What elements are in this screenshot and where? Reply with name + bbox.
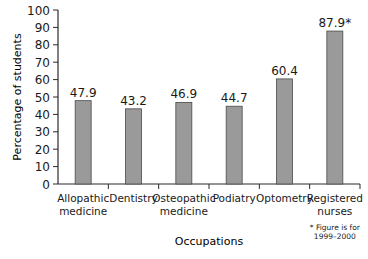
x-axis	[58, 184, 360, 189]
category-label: Osteopathic	[152, 192, 216, 204]
y-tick-label: 90	[35, 21, 50, 35]
y-tick-label: 0	[42, 178, 50, 192]
category-label: nurses	[317, 205, 352, 217]
bar-group: 60.4Optometry	[256, 64, 313, 204]
y-tick-label: 70	[35, 56, 50, 70]
bar-group: 43.2Dentistry	[109, 94, 157, 204]
category-label: Dentistry	[109, 192, 157, 204]
category-label: Allopathic	[57, 192, 109, 204]
value-label: 43.2	[120, 94, 147, 108]
category-label: Registered	[307, 192, 363, 204]
y-axis-title: Percentage of students	[11, 33, 24, 161]
category-label: Optometry	[256, 192, 313, 204]
bars: 47.9Allopathicmedicine43.2Dentistry46.9O…	[57, 16, 363, 217]
bar-group: 87.9*Registerednurses	[307, 16, 363, 217]
footnote: * Figure is for1999–2000	[310, 223, 361, 241]
y-tick-label: 100	[27, 4, 50, 18]
value-label: 46.9	[170, 87, 197, 101]
footnote-line: * Figure is for	[310, 223, 361, 232]
y-tick-label: 80	[35, 38, 50, 52]
value-label: 60.4	[271, 64, 298, 78]
y-tick-label: 40	[35, 108, 50, 122]
category-label: medicine	[59, 205, 107, 217]
bar-group: 47.9Allopathicmedicine	[57, 86, 109, 217]
bar	[226, 106, 242, 184]
y-tick-label: 50	[35, 91, 50, 105]
bar-chart: 0102030405060708090100 47.9Allopathicmed…	[0, 0, 368, 259]
value-label: 87.9*	[318, 16, 351, 30]
bar	[327, 31, 343, 184]
value-label: 44.7	[221, 91, 248, 105]
bar	[277, 79, 293, 184]
bar-group: 46.9Osteopathicmedicine	[152, 87, 216, 217]
y-tick-label: 20	[35, 143, 50, 157]
y-tick-label: 60	[35, 73, 50, 87]
x-axis-title: Occupations	[175, 235, 244, 248]
bar-group: 44.7Podiatry	[213, 91, 256, 204]
y-tick-label: 30	[35, 125, 50, 139]
value-label: 47.9	[70, 86, 97, 100]
category-label: medicine	[160, 205, 208, 217]
bar	[176, 102, 192, 184]
y-axis: 0102030405060708090100	[27, 4, 58, 192]
bar	[75, 101, 91, 184]
bar	[126, 109, 142, 184]
footnote-line: 1999–2000	[314, 232, 356, 241]
category-label: Podiatry	[213, 192, 256, 204]
y-tick-label: 10	[35, 160, 50, 174]
